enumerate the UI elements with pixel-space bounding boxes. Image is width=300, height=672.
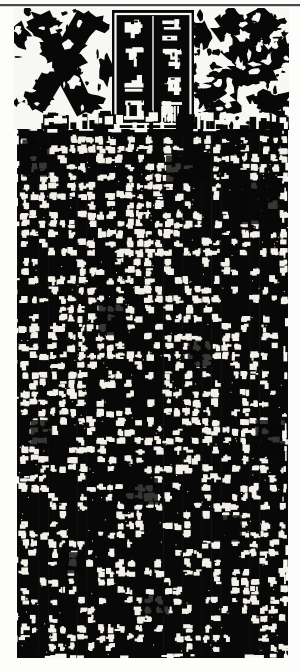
title-cartouche-script: seal script (zhuanshu), heavily eroded	[0, 0, 1, 1]
inscription-body	[17, 129, 288, 658]
stele-head-image	[14, 8, 289, 130]
stele-head-description: ornamented stele head with central title…	[0, 0, 1, 1]
inscription-body-image	[17, 129, 288, 658]
inscription-body-script: clerical/regular script, heavily weather…	[0, 0, 1, 1]
plate-medium-label: ink rubbing of carved stone stele	[0, 0, 1, 1]
inscription-body-description: dense black rubbing field of the stele f…	[0, 0, 1, 1]
top-rule	[0, 4, 300, 6]
stele-rubbing-plate: ink rubbing of carved stone stele orname…	[0, 0, 300, 672]
stele-head	[14, 8, 289, 130]
